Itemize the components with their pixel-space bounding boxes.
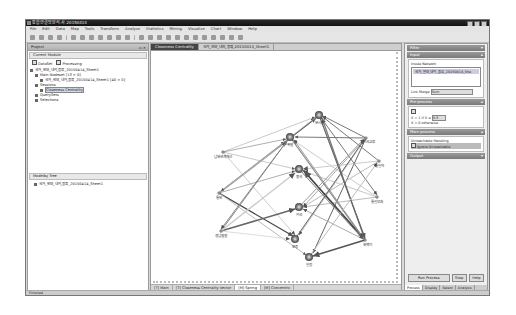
toolbar — [26, 32, 489, 43]
svg-text:외국교류: 외국교류 — [363, 139, 376, 144]
status-text: Finished — [29, 291, 43, 295]
export-icon[interactable] — [80, 35, 85, 40]
help-button[interactable]: Help — [469, 274, 484, 282]
processing-checkbox[interactable]: Processing — [56, 60, 81, 66]
zoom-icon[interactable] — [157, 35, 162, 40]
inside-network-label: Inside Network — [411, 62, 481, 66]
project-panel: Project ▭ ✕ Current Module DataSet Proce… — [27, 43, 149, 293]
network-listbox[interactable]: 국가_안보_내외_종류_20150414_She — [411, 67, 481, 87]
project-tree: 국가_안보_내외_종류_20150414_Sheet1 Main Nodeset… — [30, 68, 146, 103]
graph-node[interactable]: 북핵이 — [363, 239, 372, 248]
ignore-unreachable-checkbox[interactable] — [411, 143, 416, 148]
network-canvas[interactable]: 분시장 폭발 중국 외국 문종 일정 남북관계개선 통안 경남협절 외국교류 통… — [153, 52, 398, 283]
analysis-icon — [40, 89, 43, 92]
svg-text:통일부처: 통일부처 — [371, 199, 383, 204]
ignore-unreachable-label: Ignore Unreachable — [417, 145, 450, 149]
network-icon[interactable] — [107, 35, 112, 40]
sessions-icon — [35, 84, 38, 87]
list-icon[interactable] — [175, 35, 180, 40]
app-window: 통합연결망분석.사.20150414 File Edit Data Map To… — [25, 19, 490, 296]
dataset-icon — [34, 183, 37, 186]
tree-item-selections[interactable]: Selections — [30, 98, 146, 103]
binarize-checkbox[interactable] — [411, 109, 416, 114]
svg-text:중국: 중국 — [296, 175, 303, 179]
project-tab-label: Project — [31, 44, 44, 49]
grid-icon[interactable] — [202, 35, 207, 40]
chart-icon[interactable] — [211, 35, 216, 40]
graph-node[interactable]: 문종 — [291, 235, 299, 249]
run-process-button[interactable]: Run Process — [408, 274, 450, 282]
delete-icon[interactable] — [125, 35, 130, 40]
layout-icon[interactable] — [166, 35, 171, 40]
dataset-icon — [30, 69, 33, 72]
graph-node[interactable]: 통안 — [216, 192, 223, 201]
module-tree-header: Modelby Tree — [29, 173, 147, 180]
window-icon[interactable] — [229, 35, 234, 40]
panel-controls[interactable]: ▭ ✕ — [139, 45, 146, 51]
main-process-header[interactable]: Main process▴ — [407, 129, 485, 135]
filter-header[interactable]: Filter▾ — [407, 45, 485, 51]
output-header[interactable]: Output▾ — [407, 153, 485, 159]
project-tab[interactable]: Project ▭ ✕ — [28, 44, 148, 51]
map-icon[interactable] — [220, 35, 225, 40]
input-section: Inside Network 국가_안보_내외_종류_20150414_She … — [408, 59, 484, 98]
status-bar: Finished — [26, 290, 489, 295]
folder-icon — [35, 94, 38, 97]
network-list-item[interactable]: 국가_안보_내외_종류_20150414_She — [413, 69, 479, 74]
preprocess-header[interactable]: Pre-process▴ — [407, 99, 485, 105]
toolbar-separator — [134, 35, 135, 40]
stop-button[interactable]: Stop — [452, 274, 467, 282]
table-icon[interactable] — [89, 35, 94, 40]
graph-node[interactable]: 경남협절 — [215, 230, 227, 239]
cut-icon[interactable] — [116, 35, 121, 40]
formula-line-2: X = 0 otherwise — [411, 121, 481, 125]
link-merge-select[interactable]: Sum — [431, 89, 473, 95]
svg-text:통일차: 통일차 — [375, 163, 385, 168]
svg-text:통안: 통안 — [216, 195, 223, 200]
link-merge-label: Link Merge — [411, 90, 430, 94]
save-icon[interactable] — [48, 35, 53, 40]
svg-text:문종: 문종 — [292, 245, 299, 249]
app-icon — [27, 21, 31, 25]
arrow-right-icon[interactable] — [193, 35, 198, 40]
editor-area: Closeness Centrality 국가_안보_내외_종류_2015041… — [150, 43, 402, 293]
graph-node[interactable]: 남북관계개선 — [214, 151, 232, 160]
svg-text:경남협절: 경남협절 — [215, 233, 227, 238]
settings-icon[interactable] — [98, 35, 103, 40]
graph-node[interactable]: 통일부처 — [371, 196, 383, 205]
graph-node[interactable]: 일정 — [305, 253, 313, 267]
module-tree-item[interactable]: 국가_안보_내외_종류_20150414_Sheet1 — [30, 182, 146, 187]
processing-label: Processing — [62, 62, 81, 66]
current-module-header: Current Module — [29, 52, 147, 59]
folder-icon — [35, 99, 38, 102]
preprocess-section: X = 1 if X ≥ 0.5 X = 0 otherwise — [408, 106, 484, 128]
process-panel: Filter▾ Input▴ Inside Network 국가_안보_내외_종… — [404, 43, 488, 293]
print-icon[interactable] — [57, 35, 62, 40]
graph-node[interactable]: 외국 — [295, 203, 303, 217]
main-process-section: Unreachable Handling Ignore Unreachable — [408, 136, 484, 152]
help-icon[interactable] — [238, 35, 243, 40]
tab-closeness-centrality[interactable]: Closeness Centrality — [151, 44, 199, 50]
svg-text:외국: 외국 — [296, 212, 303, 217]
arrow-left-icon[interactable] — [184, 35, 189, 40]
dataset-checkbox[interactable]: DataSet — [32, 60, 52, 66]
input-header[interactable]: Input▴ — [407, 52, 485, 58]
svg-text:폭발: 폭발 — [287, 142, 294, 147]
toolbar-separator — [66, 35, 67, 40]
svg-text:분시장: 분시장 — [315, 120, 325, 125]
redo-icon[interactable] — [148, 35, 153, 40]
graph-node[interactable]: 외국교류 — [363, 137, 376, 145]
svg-text:남북관계개선: 남북관계개선 — [214, 154, 232, 159]
formula-line-1: X = 1 if X ≥ — [411, 116, 431, 120]
tab-sheet[interactable]: 국가_안보_내외_종류_20150414_Sheet1 — [199, 44, 274, 50]
import-icon[interactable] — [71, 35, 76, 40]
nodeset-icon — [35, 74, 38, 77]
new-file-icon[interactable] — [30, 35, 35, 40]
undo-icon[interactable] — [139, 35, 144, 40]
svg-text:북핵이: 북핵이 — [363, 242, 372, 247]
open-icon[interactable] — [39, 35, 44, 40]
matrix-icon — [40, 79, 43, 82]
network-graph[interactable]: 분시장 폭발 중국 외국 문종 일정 남북관계개선 통안 경남협절 외국교류 통… — [153, 52, 398, 277]
svg-text:일정: 일정 — [306, 262, 312, 267]
window-title: 통합연결망분석.사.20150414 — [32, 20, 87, 25]
